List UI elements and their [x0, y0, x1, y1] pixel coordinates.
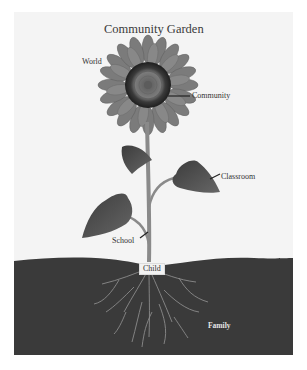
- label-world: World: [82, 57, 102, 66]
- label-family: Family: [208, 321, 231, 330]
- petals: [98, 35, 198, 135]
- label-community: Community: [192, 91, 230, 100]
- label-child: Child: [139, 263, 165, 275]
- diagram-canvas: Community Garden World Community Classro…: [14, 12, 293, 355]
- sunflower-illustration: [14, 12, 293, 355]
- school-leaf: [82, 194, 132, 238]
- diagram-title: Community Garden: [104, 22, 204, 37]
- classroom-leaf: [173, 161, 220, 193]
- label-classroom: Classroom: [221, 172, 255, 181]
- label-school: School: [112, 236, 134, 245]
